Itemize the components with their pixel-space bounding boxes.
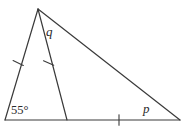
angle-label-p: p (143, 102, 150, 115)
angle-label-q: q (46, 25, 53, 38)
geometry-figure: 55° q p (0, 0, 184, 127)
angle-label-55-degrees: 55° (11, 104, 29, 117)
side-ac-line (38, 9, 180, 120)
